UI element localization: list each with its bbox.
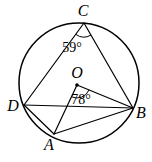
segment-CB — [84, 23, 133, 108]
label-point-O: O — [71, 64, 83, 81]
label-point-A: A — [43, 136, 54, 153]
geometry-diagram: C O D B A 59° 78° — [0, 0, 152, 162]
angle-value-59: 59° — [62, 40, 82, 55]
segment-AB — [54, 108, 133, 134]
label-point-B: B — [136, 104, 146, 121]
circle-geometry-figure: C O D B A 59° 78° — [0, 0, 152, 162]
angle-arc-at-C — [76, 34, 91, 37]
label-point-D: D — [6, 97, 19, 114]
angle-value-78: 78° — [71, 92, 91, 107]
label-point-C: C — [78, 2, 89, 19]
center-point-O-dot — [75, 83, 79, 87]
segment-DA — [24, 105, 54, 134]
